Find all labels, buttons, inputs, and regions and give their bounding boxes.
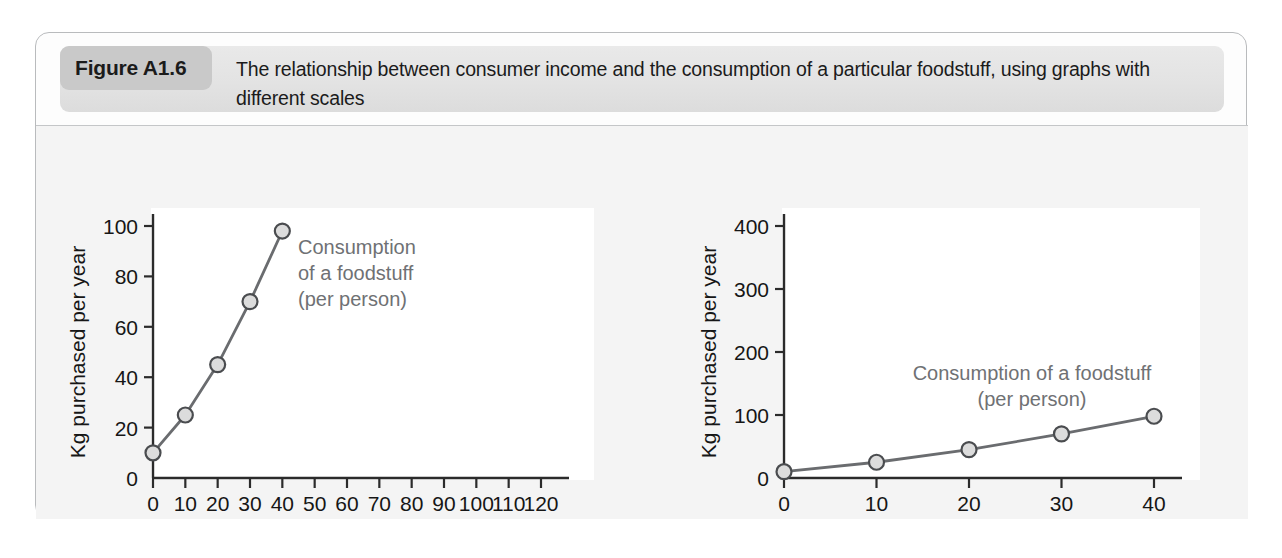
figure-panel: Figure A1.6 The relationship between con…: [35, 32, 1247, 519]
data-point: [1147, 409, 1162, 424]
svg-text:300: 300: [734, 278, 769, 301]
svg-text:40: 40: [115, 366, 138, 389]
data-point: [777, 464, 792, 479]
chart-a-svg: 0204060801000102030405060708090100110120…: [36, 126, 642, 519]
chart-annotation-line: (per person): [298, 288, 407, 310]
data-point: [243, 294, 258, 309]
chart-b-svg: 0100200300400010203040Kg purchased per y…: [642, 126, 1248, 519]
svg-text:90: 90: [432, 492, 455, 515]
y-axis-title: Kg purchased per year: [697, 246, 720, 458]
svg-text:80: 80: [400, 492, 423, 515]
svg-text:0: 0: [126, 467, 138, 490]
chart-annotation-line: Consumption of a foodstuff: [913, 362, 1152, 384]
data-point: [962, 442, 977, 457]
svg-text:50: 50: [303, 492, 326, 515]
svg-text:100: 100: [734, 404, 769, 427]
chart-annotation-line: Consumption: [298, 236, 416, 258]
svg-text:200: 200: [734, 341, 769, 364]
charts-area: 0204060801000102030405060708090100110120…: [36, 126, 1248, 519]
data-point: [210, 357, 225, 372]
chart-a-panel: 0204060801000102030405060708090100110120…: [36, 126, 642, 519]
svg-text:10: 10: [174, 492, 197, 515]
chart-annotation-line: of a foodstuff: [298, 262, 414, 284]
figure-number-label: Figure A1.6: [75, 56, 186, 80]
svg-text:20: 20: [206, 492, 229, 515]
chart-b-panel: 0100200300400010203040Kg purchased per y…: [642, 126, 1248, 519]
data-point: [178, 408, 193, 423]
svg-text:40: 40: [1142, 492, 1165, 515]
svg-text:20: 20: [115, 417, 138, 440]
y-axis-title: Kg purchased per year: [66, 246, 89, 458]
figure-title: The relationship between consumer income…: [236, 55, 1201, 113]
data-point: [1054, 426, 1069, 441]
svg-text:10: 10: [865, 492, 888, 515]
svg-text:100: 100: [459, 492, 494, 515]
svg-text:30: 30: [238, 492, 261, 515]
svg-text:0: 0: [757, 467, 769, 490]
svg-text:70: 70: [368, 492, 391, 515]
svg-text:120: 120: [523, 492, 558, 515]
svg-text:20: 20: [957, 492, 980, 515]
svg-text:60: 60: [115, 316, 138, 339]
svg-text:30: 30: [1050, 492, 1073, 515]
svg-text:60: 60: [335, 492, 358, 515]
plot-background: [782, 208, 1200, 480]
svg-text:0: 0: [778, 492, 790, 515]
figure-header: Figure A1.6 The relationship between con…: [36, 33, 1248, 125]
data-point: [275, 224, 290, 239]
svg-text:40: 40: [271, 492, 294, 515]
svg-text:400: 400: [734, 215, 769, 238]
chart-annotation-line: (per person): [978, 388, 1087, 410]
data-point: [146, 445, 161, 460]
svg-text:80: 80: [115, 265, 138, 288]
svg-text:100: 100: [103, 215, 138, 238]
svg-text:110: 110: [492, 492, 525, 515]
data-point: [869, 455, 884, 470]
svg-text:0: 0: [147, 492, 159, 515]
